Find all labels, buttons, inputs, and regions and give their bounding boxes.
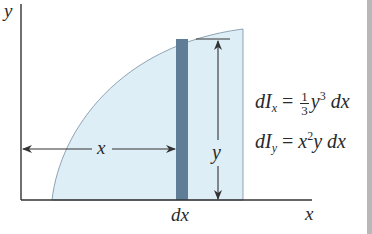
- page-edge-border: [367, 0, 372, 234]
- y-axis-label: y: [4, 1, 12, 20]
- equation-dIx: dIx = 13y3 dx: [255, 90, 350, 117]
- diagram-svg: [0, 0, 372, 234]
- eq1-frac-den: 3: [300, 104, 309, 117]
- eq2-tail: y dx: [313, 130, 346, 152]
- eq1-I: I: [265, 90, 272, 112]
- y-dimension-label: y: [212, 142, 221, 162]
- eq1-fraction: 13: [300, 90, 309, 117]
- eq1-d: d: [255, 90, 265, 112]
- dx-label: dx: [171, 205, 189, 224]
- eq2-equals: =: [277, 130, 298, 152]
- x-dimension-label: x: [97, 138, 105, 157]
- eq2-d: d: [255, 130, 265, 152]
- eq2-I: I: [265, 130, 272, 152]
- x-axis-label: x: [305, 204, 313, 223]
- eq1-equals: =: [277, 90, 298, 112]
- moment-of-inertia-diagram: y x x y dx dIx = 13y3 dx dIy = x2y dx: [0, 0, 372, 234]
- eq1-frac-num: 1: [300, 90, 309, 104]
- differential-strip: [176, 39, 188, 200]
- shaded-area-region: [52, 29, 243, 200]
- eq1-var: y: [311, 90, 320, 112]
- equation-dIy: dIy = x2y dx: [255, 130, 346, 154]
- eq1-tail: dx: [326, 90, 350, 112]
- eq2-var: x: [298, 130, 307, 152]
